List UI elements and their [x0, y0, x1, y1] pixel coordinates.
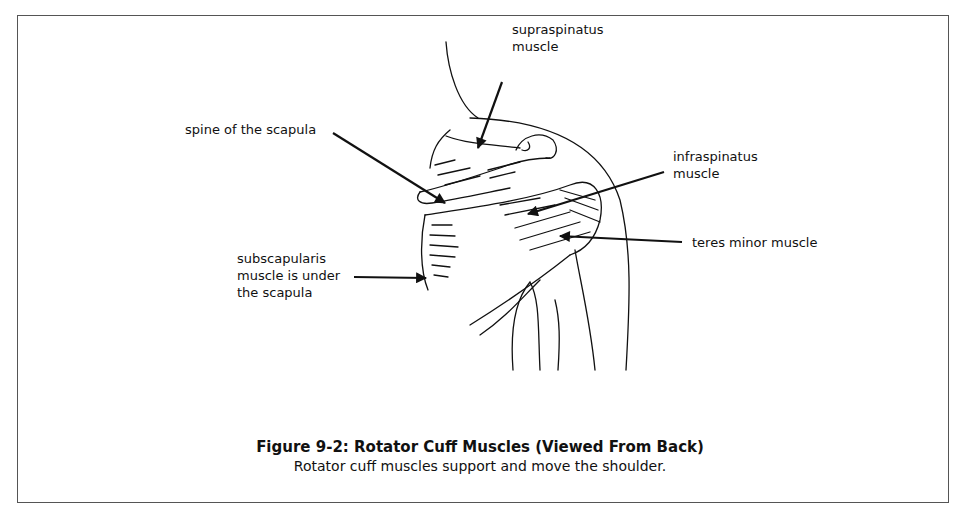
label-subscapularis: subscapularis muscle is under the scapul… — [237, 250, 340, 301]
figure-title: Figure 9-2: Rotator Cuff Muscles (Viewed… — [0, 437, 960, 457]
figure-description: Rotator cuff muscles support and move th… — [0, 457, 960, 476]
label-spine-of-scapula: spine of the scapula — [185, 121, 316, 138]
label-supraspinatus: supraspinatus muscle — [512, 21, 604, 55]
label-infraspinatus: infraspinatus muscle — [673, 148, 758, 182]
label-teres-minor: teres minor muscle — [692, 234, 817, 251]
figure-caption: Figure 9-2: Rotator Cuff Muscles (Viewed… — [0, 437, 960, 476]
